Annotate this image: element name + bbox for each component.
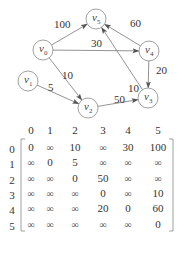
matrix-cell: 10: [153, 187, 165, 199]
directed-weighted-graph: 1003010550106020 v0v1v2v3v4v5 0123450123…: [0, 0, 185, 254]
matrix-cell: 10: [70, 141, 82, 153]
edge-weight-label: 10: [128, 82, 140, 94]
matrix-cell: 20: [98, 202, 110, 214]
edge-weight-label: 100: [54, 18, 71, 30]
matrix-cell: 0: [47, 156, 53, 168]
matrix-column-header: 3: [100, 124, 106, 136]
matrix-cell: ∞: [71, 203, 78, 214]
matrix-cell: ∞: [99, 142, 106, 153]
matrix-row-header: 0: [9, 143, 15, 155]
node-v4: v4: [139, 41, 159, 61]
matrix-cell: 0: [155, 218, 161, 230]
matrix-cell: ∞: [71, 188, 78, 199]
edge-v3-v5: [102, 28, 143, 90]
matrix-column-header: 2: [72, 124, 78, 136]
matrix-cell: ∞: [46, 219, 53, 230]
matrix-cell: ∞: [154, 173, 161, 184]
matrix-column-header: 4: [125, 124, 131, 136]
matrix-cell: 0: [28, 141, 34, 153]
matrix-column-header: 5: [155, 124, 161, 136]
node-v0: v0: [33, 40, 53, 60]
matrix-row-header: 3: [9, 189, 15, 201]
matrix-left-bracket: [21, 139, 25, 231]
matrix-cell: ∞: [124, 173, 131, 184]
matrix-row-header: 1: [9, 158, 15, 170]
matrix-cell: ∞: [27, 219, 34, 230]
edge-weight-label: 20: [156, 64, 168, 76]
matrix-cell: ∞: [154, 157, 161, 168]
matrix-column-header: 1: [47, 124, 53, 136]
matrix-cell: ∞: [46, 203, 53, 214]
matrix-cell: ∞: [27, 188, 34, 199]
node-v1: v1: [18, 71, 38, 91]
matrix-cell: ∞: [71, 219, 78, 230]
matrix-cell: ∞: [99, 157, 106, 168]
edge-v0-v4: [53, 50, 139, 51]
matrix-cell: 0: [125, 202, 131, 214]
edge-weight-label: 10: [62, 69, 74, 81]
matrix-cell: ∞: [27, 203, 34, 214]
matrix-cell: 0: [100, 187, 106, 199]
matrix-cell: ∞: [124, 219, 131, 230]
node-v5: v5: [86, 9, 106, 29]
adjacency-matrix: 0123450123450∞10∞30100∞05∞∞∞∞∞050∞∞∞∞∞0∞…: [9, 124, 173, 232]
matrix-cell: ∞: [46, 188, 53, 199]
matrix-cell: 60: [153, 202, 165, 214]
matrix-cell: 30: [123, 141, 135, 153]
edge-weight-label: 50: [114, 93, 126, 105]
matrix-row-header: 2: [9, 174, 15, 186]
matrix-cell: ∞: [46, 142, 53, 153]
matrix-cell: 0: [72, 172, 78, 184]
edge-v4-v3: [148, 61, 149, 88]
matrix-cell: ∞: [99, 219, 106, 230]
matrix-cell: ∞: [124, 188, 131, 199]
matrix-right-bracket: [169, 139, 173, 231]
matrix-cell: ∞: [46, 173, 53, 184]
matrix-cell: ∞: [124, 157, 131, 168]
matrix-column-header: 0: [28, 124, 34, 136]
edge-weight-label: 5: [48, 81, 54, 93]
matrix-cell: ∞: [27, 157, 34, 168]
matrix-cell: 5: [72, 156, 78, 168]
node-v3: v3: [138, 88, 158, 108]
node-v2: v2: [78, 98, 98, 118]
matrix-row-header: 4: [9, 204, 15, 216]
matrix-cell: 50: [98, 172, 110, 184]
matrix-cell: ∞: [27, 173, 34, 184]
matrix-row-header: 5: [9, 220, 15, 232]
matrix-cell: 100: [150, 141, 167, 153]
edge-weight-label: 60: [130, 17, 142, 29]
edge-weight-label: 30: [91, 37, 103, 49]
